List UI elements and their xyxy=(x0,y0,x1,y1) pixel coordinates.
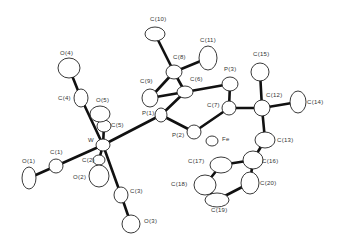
atom-label-o1: O(1) xyxy=(22,158,35,164)
atom-o1 xyxy=(22,167,36,189)
atom-c7 xyxy=(222,101,236,115)
atom-c10 xyxy=(145,27,165,41)
atom-label-c8: C(8) xyxy=(173,54,186,60)
atom-c9 xyxy=(142,89,158,107)
atom-label-o2: O(2) xyxy=(73,174,86,180)
atom-label-p2: P(2) xyxy=(172,132,185,138)
atom-label-c6: C(6) xyxy=(190,76,203,82)
atom-label-p3: P(3) xyxy=(224,66,237,72)
atom-c20 xyxy=(241,172,259,194)
atom-label-c7: C(7) xyxy=(207,102,220,108)
atom-label-c12: C(12) xyxy=(266,92,283,98)
atom-label-c10: C(10) xyxy=(150,16,167,22)
atom-c13 xyxy=(255,132,275,148)
atom-label-fe: Fe xyxy=(222,136,230,142)
ortep-diagram: WC(1)O(1)C(2)O(2)C(3)O(3)C(4)O(4)C(5)O(5… xyxy=(0,0,340,249)
atom-c8 xyxy=(166,65,182,79)
atom-label-o5: O(5) xyxy=(96,97,109,103)
atom-c17 xyxy=(210,157,232,173)
atom-p3 xyxy=(222,77,238,91)
atom-label-c18: C(18) xyxy=(171,181,188,187)
atom-p1 xyxy=(155,108,167,122)
atom-label-p1: P(1) xyxy=(142,110,155,116)
atom-label-c2: C(2) xyxy=(82,157,95,163)
atom-c19 xyxy=(205,193,229,207)
bond-w-p1 xyxy=(103,115,161,145)
atom-c1 xyxy=(49,159,63,173)
atom-c18 xyxy=(194,175,216,195)
atom-o5 xyxy=(90,106,110,122)
atom-c4 xyxy=(74,89,88,107)
atom-label-c19: C(19) xyxy=(211,207,228,213)
atom-c16 xyxy=(243,151,263,169)
atom-label-c16: C(16) xyxy=(262,158,279,164)
atom-label-c13: C(13) xyxy=(277,137,294,143)
atom-w xyxy=(96,139,110,151)
atom-label-o4: O(4) xyxy=(60,50,73,56)
atom-o4 xyxy=(58,58,80,78)
atom-c14 xyxy=(290,91,306,113)
atom-label-c9: C(9) xyxy=(140,78,153,84)
atom-c15 xyxy=(251,63,269,81)
atom-label-c15: C(15) xyxy=(253,51,270,57)
atom-label-c20: C(20) xyxy=(260,180,277,186)
atom-c12 xyxy=(254,100,270,116)
atom-c3 xyxy=(114,187,128,203)
atom-label-w: W xyxy=(88,137,94,143)
atom-label-c14: C(14) xyxy=(307,99,324,105)
atom-label-c3: C(3) xyxy=(130,188,143,194)
molecule-structure: WC(1)O(1)C(2)O(2)C(3)O(3)C(4)O(4)C(5)O(5… xyxy=(0,0,340,249)
atom-fe xyxy=(206,136,218,146)
atom-o2 xyxy=(89,165,109,187)
atom-c11 xyxy=(199,46,217,70)
atom-o3 xyxy=(122,215,140,233)
atom-label-c5: C(5) xyxy=(111,122,124,128)
atom-label-c11: C(11) xyxy=(200,37,216,43)
atom-label-c1: C(1) xyxy=(50,149,63,155)
atom-c6 xyxy=(177,86,193,98)
atom-label-c4: C(4) xyxy=(58,95,71,101)
atom-label-o3: O(3) xyxy=(144,218,157,224)
atom-label-c17: C(17) xyxy=(188,158,205,164)
atom-p2 xyxy=(187,125,201,139)
